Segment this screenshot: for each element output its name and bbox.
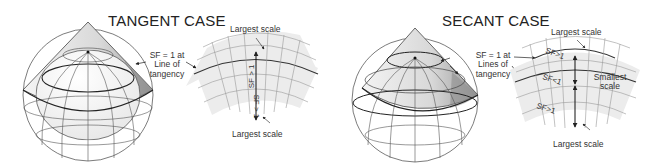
secant-smallest-label: Smallest scale [590, 73, 630, 92]
secant-bottom-label: Largest scale [553, 140, 604, 149]
secant-cone-globe [352, 28, 478, 162]
secant-callout-line3: tangency [473, 70, 513, 79]
secant-title: SECANT CASE [442, 12, 550, 29]
secant-callout-arrow-3 [514, 57, 535, 58]
tangent-callout: SF = 1 at Line of tangency [148, 51, 186, 79]
tangent-bottom-label: Largest scale [232, 130, 283, 139]
tangent-upper-sf: SF > 1 [248, 65, 257, 89]
secant-smallest-line2: scale [590, 82, 630, 91]
tangent-lower-sf: SF > 1 [252, 95, 261, 119]
tangent-top-label: Largest scale [230, 25, 281, 34]
tangent-callout-arrow-right [186, 62, 196, 68]
secant-callout: SF = 1 at Lines of tangency [473, 51, 513, 79]
tangent-title: TANGENT CASE [108, 12, 226, 29]
secant-top-label: Largest scale [551, 28, 602, 37]
tangent-callout-line3: tangency [148, 70, 186, 79]
tangent-cone-globe [23, 22, 153, 161]
